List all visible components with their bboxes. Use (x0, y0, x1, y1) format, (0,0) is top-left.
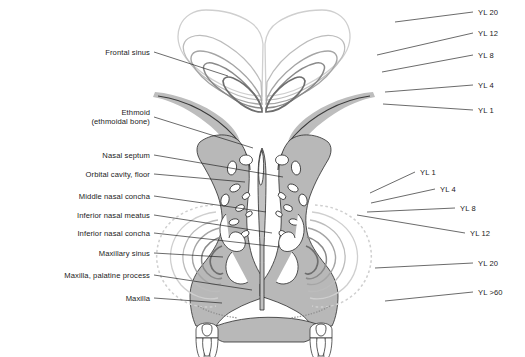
label-yl-4-frontal: YL 4 (478, 81, 494, 90)
leader-yl-4-frontal (385, 85, 473, 92)
leader-yl-4-maxillary (371, 189, 435, 203)
label-middle-nasal-concha: Middle nasal concha (79, 192, 150, 201)
leader-yl-12-frontal (377, 33, 473, 55)
sinus-diagram-artwork: .bone{fill:#b8b8b8;stroke:#2b2b2b;stroke… (0, 0, 525, 357)
leader-yl-8-frontal (382, 55, 473, 72)
leader-yl-1-frontal (383, 104, 473, 110)
label-text: Middle nasal concha (79, 192, 150, 201)
label-text: Nasal septum (102, 151, 150, 160)
label-text-secondary: (ethmoidal bone) (91, 117, 150, 126)
leader-yl-8-maxillary (367, 208, 455, 212)
label-orbital-cavity-floor: Orbital cavity, floor (86, 170, 150, 179)
label-text: Maxilla (126, 294, 150, 303)
leader-yl-20-frontal (395, 12, 473, 22)
label-yl-20-maxillary: YL 20 (478, 259, 498, 268)
leader-yl-over-60 (385, 292, 473, 301)
frontal-sinus-contours-right (265, 10, 350, 112)
label-yl-8-maxillary: YL 8 (460, 204, 476, 213)
label-yl-1-frontal: YL 1 (478, 106, 494, 115)
label-maxilla-palatine-process: Maxilla, palatine process (64, 271, 150, 280)
label-yl-12-frontal: YL 12 (478, 29, 498, 38)
label-text: Maxilla, palatine process (64, 271, 150, 280)
molar-tooth-left (196, 323, 218, 357)
label-yl-12-maxillary: YL 12 (470, 229, 490, 238)
label-yl-8-frontal: YL 8 (478, 51, 494, 60)
label-text: Ethmoid (121, 108, 150, 117)
label-text: Maxillary sinus (99, 249, 150, 258)
label-frontal-sinus: Frontal sinus (105, 48, 150, 57)
frontal-sinus-contours-left (178, 10, 263, 112)
label-text: Inferior nasal meatus (77, 211, 150, 220)
label-yl-1-maxillary: YL 1 (420, 168, 436, 177)
label-yl-4-maxillary: YL 4 (440, 185, 456, 194)
label-text: Inferior nasal concha (77, 229, 150, 238)
leader-yl-20-maxillary (375, 263, 473, 268)
label-yl-20-frontal: YL 20 (478, 8, 498, 17)
leader-yl-1-maxillary (370, 172, 415, 193)
label-text: Orbital cavity, floor (86, 170, 150, 179)
label-text: Frontal sinus (105, 48, 150, 57)
label-inferior-nasal-meatus: Inferior nasal meatus (77, 211, 150, 220)
label-ethmoid: Ethmoid(ethmoidal bone) (91, 108, 150, 126)
leader-yl-12-maxillary (357, 215, 465, 233)
leader-middle-nasal-concha (154, 196, 266, 212)
label-maxilla: Maxilla (126, 294, 150, 303)
label-inferior-nasal-concha: Inferior nasal concha (77, 229, 150, 238)
label-nasal-septum: Nasal septum (102, 151, 150, 160)
label-yl-over-60: YL >60 (478, 288, 503, 297)
molar-tooth-right (310, 323, 332, 357)
anatomical-figure: .bone{fill:#b8b8b8;stroke:#2b2b2b;stroke… (0, 0, 525, 357)
label-maxillary-sinus: Maxillary sinus (99, 249, 150, 258)
